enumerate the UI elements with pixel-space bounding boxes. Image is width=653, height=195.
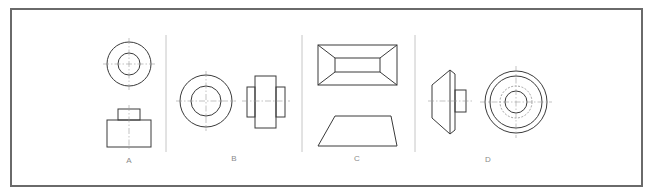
hub-rect xyxy=(255,76,276,128)
panel-c: C xyxy=(318,45,397,163)
drawing-sheet: A B C xyxy=(0,0,653,195)
left-flange xyxy=(247,87,255,117)
panel-b-front-view xyxy=(176,71,236,131)
right-flange xyxy=(276,87,285,117)
panel-b-side-view xyxy=(242,76,290,128)
trapezoid xyxy=(318,116,397,146)
panel-b: B xyxy=(176,71,290,163)
edge-tl xyxy=(318,45,335,58)
panel-label-d: D xyxy=(485,155,491,164)
panel-d: D xyxy=(428,66,552,164)
inner-rect xyxy=(335,58,380,72)
sheet-border xyxy=(11,9,642,186)
panel-a-front-view xyxy=(107,105,151,151)
panel-d-side-view xyxy=(428,70,472,134)
panel-label-c: C xyxy=(354,154,360,163)
panel-c-front-view xyxy=(318,116,397,146)
panel-c-top-view xyxy=(318,45,397,85)
panel-a-top-view xyxy=(103,38,155,90)
edge-br xyxy=(380,72,397,85)
edge-bl xyxy=(318,72,335,85)
panel-label-b: B xyxy=(231,154,236,163)
panel-a: A xyxy=(103,38,155,165)
chamfered-disc xyxy=(432,70,455,134)
outer-rect xyxy=(318,45,397,85)
panel-d-front-view xyxy=(480,66,552,138)
panel-label-a: A xyxy=(126,156,132,165)
edge-tr xyxy=(380,45,397,58)
